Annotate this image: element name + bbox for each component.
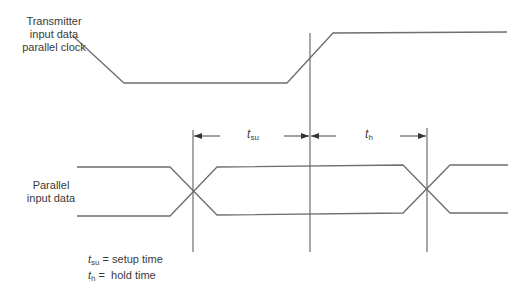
tsu-label: tsu [238,128,268,144]
legend: tsu = setup time th = hold time [88,253,163,285]
legend-th: th = hold time [88,269,163,285]
clock-waveform [73,32,507,83]
legend-tsu: tsu = setup time [88,253,163,269]
timing-diagram: Transmitter input data parallel clock Pa… [0,0,527,294]
data-waveform-upper-left [77,165,508,215]
clock-label: Transmitter input data parallel clock [14,15,94,54]
data-label: Parallel input data [24,179,78,205]
th-label: th [357,128,381,144]
